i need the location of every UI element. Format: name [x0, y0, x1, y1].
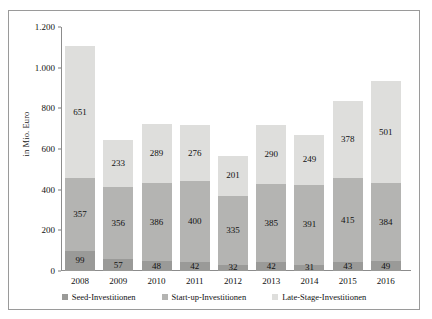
bar-series-container: 6513579920082333565720092893864820102764… [61, 27, 405, 271]
bar-segment-late-stage[interactable]: 276 [180, 125, 210, 181]
bar-segment-seed[interactable]: 49 [371, 261, 401, 271]
bar-segment-value: 356 [112, 219, 126, 228]
bar-segment-value: 400 [188, 217, 202, 226]
bar-segment-value: 501 [379, 128, 393, 137]
bar-segment-start-up[interactable]: 384 [371, 183, 401, 261]
bar-segment-value: 32 [228, 263, 237, 272]
x-axis-tick-label: 2008 [71, 276, 89, 286]
bar-group[interactable]: 276400422011 [180, 27, 210, 271]
bar-group[interactable]: 289386482010 [142, 27, 172, 271]
chart-legend: Seed-InvestitionenStart-up-Investitionen… [9, 292, 419, 302]
x-axis-tick-label: 2012 [224, 276, 242, 286]
bar-segment-late-stage[interactable]: 651 [65, 46, 95, 178]
bar-segment-value: 42 [267, 262, 276, 271]
bar-segment-seed[interactable]: 48 [142, 261, 172, 271]
bar-segment-value: 357 [73, 210, 87, 219]
bar-group[interactable]: 501384492016 [371, 27, 401, 271]
legend-item[interactable]: Start-up-Investitionen [162, 292, 247, 302]
legend-item[interactable]: Seed-Investitionen [62, 292, 136, 302]
x-axis-tick-label: 2010 [148, 276, 166, 286]
legend-label: Late-Stage-Investitionen [282, 292, 366, 302]
legend-swatch-icon [162, 294, 168, 300]
bar-segment-seed[interactable]: 31 [294, 265, 324, 271]
bar-segment-value: 49 [381, 262, 390, 271]
legend-item[interactable]: Late-Stage-Investitionen [272, 292, 366, 302]
bar-segment-start-up[interactable]: 385 [256, 184, 286, 262]
bar-segment-value: 57 [114, 261, 123, 270]
bar-segment-seed[interactable]: 32 [218, 265, 248, 272]
legend-label: Start-up-Investitionen [172, 292, 247, 302]
y-axis-tick-label: 0 [51, 266, 56, 276]
bar-segment-value: 42 [190, 262, 199, 271]
y-axis-tick-label: 400 [42, 185, 56, 195]
bar-segment-late-stage[interactable]: 233 [103, 140, 133, 187]
x-axis-tick-label: 2011 [186, 276, 204, 286]
bar-group[interactable]: 233356572009 [103, 27, 133, 271]
bar-segment-start-up[interactable]: 415 [333, 178, 363, 262]
bar-group[interactable]: 378415432015 [333, 27, 363, 271]
legend-label: Seed-Investitionen [72, 292, 136, 302]
legend-swatch-icon [272, 294, 278, 300]
x-axis-tick-label: 2014 [300, 276, 318, 286]
x-axis-tick-label: 2015 [339, 276, 357, 286]
x-axis-tick-label: 2016 [377, 276, 395, 286]
y-axis-tick-label: 1.000 [35, 63, 55, 73]
bar-segment-value: 99 [76, 256, 85, 265]
y-axis-tick-label: 200 [42, 225, 56, 235]
bar-segment-value: 249 [303, 155, 317, 164]
bar-segment-value: 415 [341, 216, 355, 225]
x-axis-tick-label: 2013 [262, 276, 280, 286]
bar-segment-value: 43 [343, 262, 352, 271]
bar-segment-late-stage[interactable]: 249 [294, 135, 324, 186]
bar-segment-value: 201 [226, 171, 240, 180]
bar-group[interactable]: 290385422013 [256, 27, 286, 271]
y-axis-title: in Mio. Euro [21, 79, 31, 189]
bar-segment-start-up[interactable]: 400 [180, 181, 210, 262]
legend-swatch-icon [62, 294, 68, 300]
y-axis-tick-label: 1.200 [35, 22, 55, 32]
bar-segment-value: 335 [226, 226, 240, 235]
bar-segment-start-up[interactable]: 357 [65, 178, 95, 251]
bar-segment-value: 378 [341, 135, 355, 144]
bar-segment-start-up[interactable]: 391 [294, 185, 324, 265]
bar-segment-value: 385 [264, 219, 278, 228]
bar-group[interactable]: 201335322012 [218, 27, 248, 271]
bar-segment-late-stage[interactable]: 290 [256, 125, 286, 184]
bar-segment-late-stage[interactable]: 289 [142, 124, 172, 183]
bar-segment-start-up[interactable]: 386 [142, 183, 172, 261]
bar-segment-value: 386 [150, 218, 164, 227]
bar-segment-seed[interactable]: 43 [333, 262, 363, 271]
y-axis-tick-label: 600 [42, 144, 56, 154]
x-axis-tick-label: 2009 [109, 276, 127, 286]
bar-segment-value: 289 [150, 149, 164, 158]
bar-segment-value: 384 [379, 218, 393, 227]
bar-segment-late-stage[interactable]: 378 [333, 101, 363, 178]
bar-segment-late-stage[interactable]: 501 [371, 81, 401, 183]
bar-segment-value: 290 [264, 150, 278, 159]
chart-frame: in Mio. Euro 1.2001.0008006004002000 651… [8, 10, 420, 310]
bar-segment-late-stage[interactable]: 201 [218, 156, 248, 197]
bar-segment-value: 651 [73, 108, 87, 117]
bar-segment-start-up[interactable]: 335 [218, 196, 248, 264]
bar-segment-value: 233 [112, 159, 126, 168]
bar-segment-seed[interactable]: 42 [180, 262, 210, 271]
bar-segment-seed[interactable]: 57 [103, 259, 133, 271]
bar-segment-start-up[interactable]: 356 [103, 187, 133, 259]
bar-segment-value: 31 [305, 263, 314, 272]
bar-segment-value: 391 [303, 220, 317, 229]
bar-segment-value: 276 [188, 149, 202, 158]
bar-segment-seed[interactable]: 99 [65, 251, 95, 271]
bar-group[interactable]: 249391312014 [294, 27, 324, 271]
bar-group[interactable]: 651357992008 [65, 27, 95, 271]
bar-segment-seed[interactable]: 42 [256, 262, 286, 271]
y-axis-tick-label: 800 [42, 103, 56, 113]
bar-segment-value: 48 [152, 262, 161, 271]
plot-area: 1.2001.0008006004002000 6513579920082333… [61, 27, 405, 271]
